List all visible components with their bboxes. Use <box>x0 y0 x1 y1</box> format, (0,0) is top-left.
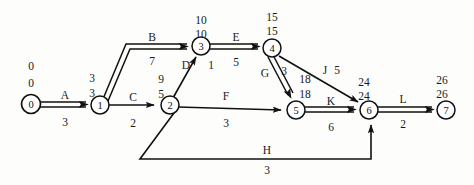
edge-E-label: E <box>232 32 239 43</box>
edge-E-duration: 5 <box>233 57 239 68</box>
edge-H-label: H <box>263 145 271 156</box>
node-0[interactable]: 0 <box>22 95 41 114</box>
node-3-latest-time: 10 <box>195 29 207 40</box>
node-1-earliest-time: 3 <box>89 73 95 84</box>
edge-L-duration: 2 <box>400 119 406 130</box>
node-3-label: 3 <box>198 41 203 52</box>
edge-A-duration: 3 <box>62 117 68 128</box>
edge-K-duration: 6 <box>328 122 334 133</box>
edge-K <box>305 107 356 112</box>
node-6-latest-time: 24 <box>358 91 370 102</box>
edge-G-duration: 3 <box>281 66 287 77</box>
edge-D-duration: 1 <box>208 60 214 71</box>
node-0-label: 0 <box>28 99 33 110</box>
edge-G-label: G <box>261 68 269 79</box>
edge-J-duration: 5 <box>334 65 340 76</box>
node-6[interactable]: 6 <box>360 101 378 119</box>
node-1-latest-time: 3 <box>89 88 95 99</box>
node-4-label: 4 <box>269 43 275 54</box>
edge-B-label: B <box>148 32 156 43</box>
edge-F-label: F <box>223 91 229 102</box>
edge-D-label: D <box>182 60 190 71</box>
node-5[interactable]: 5 <box>287 101 305 119</box>
node-7-earliest-time: 26 <box>436 75 448 86</box>
edge-F <box>178 107 281 110</box>
edge-H <box>140 113 371 159</box>
edge-K-label: K <box>327 96 335 107</box>
node-2-label: 2 <box>167 100 172 111</box>
node-4[interactable]: 4 <box>263 39 281 57</box>
node-7-label: 7 <box>443 105 448 116</box>
edge-J <box>279 56 358 102</box>
edge-C-duration: 2 <box>130 118 136 129</box>
node-0-latest-time: 0 <box>28 78 34 89</box>
node-3-earliest-time: 10 <box>195 15 207 26</box>
node-5-label: 5 <box>293 105 298 116</box>
edge-L <box>378 107 434 112</box>
edge-A-label: A <box>61 90 69 101</box>
node-7[interactable]: 7 <box>437 101 455 119</box>
edge-B-duration: 7 <box>149 56 155 67</box>
node-2-latest-time: 5 <box>158 89 164 100</box>
node-6-label: 6 <box>366 105 371 116</box>
node-5-latest-time: 18 <box>299 89 311 100</box>
edge-A <box>40 102 88 107</box>
node-5-earliest-time: 18 <box>299 74 311 85</box>
edge-L-label: L <box>399 94 406 105</box>
node-1-label: 1 <box>97 100 102 111</box>
node-0-earliest-time: 0 <box>28 61 34 72</box>
node-3[interactable]: 3 <box>192 37 210 55</box>
node-1[interactable]: 1 <box>91 96 109 114</box>
node-6-earliest-time: 24 <box>358 77 370 88</box>
edge-J-label: J <box>323 65 327 76</box>
node-2-earliest-time: 9 <box>158 74 164 85</box>
node-4-earliest-time: 15 <box>266 12 278 23</box>
edge-H-duration: 3 <box>264 165 270 176</box>
node-4-latest-time: 15 <box>266 26 278 37</box>
edge-F-duration: 3 <box>223 118 229 129</box>
edge-E <box>210 44 260 49</box>
edge-C-label: C <box>129 92 137 103</box>
node-7-latest-time: 26 <box>436 89 448 100</box>
network-diagram-canvas: 0 1 2 3 4 5 6 7 0 0 <box>0 0 474 185</box>
